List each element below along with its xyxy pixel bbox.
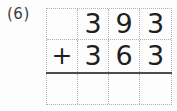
digit-cell-tens: 6 [109, 40, 140, 72]
problem-number: (6) [7, 5, 30, 23]
digit-cell-hundreds: 3 [78, 40, 109, 72]
addition-grid: 3 9 3 + 3 6 3 [46, 8, 172, 105]
worksheet-page: (6) 3 9 3 + 3 6 3 [0, 0, 177, 111]
digit-cell-ones: 3 [140, 9, 171, 39]
answer-cell [47, 74, 78, 104]
plus-operator: + [47, 40, 78, 72]
addend-row-2: + 3 6 3 [47, 40, 171, 72]
digit-cell-ones: 3 [140, 40, 171, 72]
empty-cell [47, 9, 78, 39]
addend-row-1: 3 9 3 [47, 9, 171, 40]
answer-cell [140, 74, 171, 104]
digit-cell-tens: 9 [109, 9, 140, 39]
digit-cell-hundreds: 3 [78, 9, 109, 39]
answer-cell [78, 74, 109, 104]
answer-row [47, 74, 171, 104]
answer-cell [109, 74, 140, 104]
